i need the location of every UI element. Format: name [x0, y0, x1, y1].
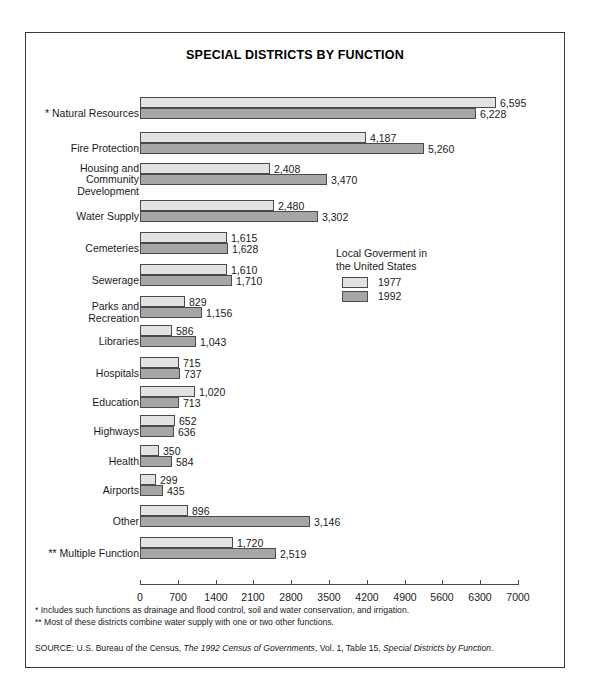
bar-1977: 350	[140, 445, 159, 456]
bar-group: 299435	[140, 474, 163, 496]
bar-1992: 2,519	[140, 548, 276, 559]
legend-item-1992: 1992	[336, 290, 496, 302]
source-line: SOURCE: U.S. Bureau of the Census, The 1…	[35, 642, 555, 654]
bar-1977: 2,408	[140, 163, 270, 174]
bar-value-label: 5,260	[428, 143, 454, 155]
bar-1977: 896	[140, 505, 188, 516]
bar-value-label: 713	[183, 397, 201, 409]
bar-1992: 713	[140, 397, 179, 408]
category-label: Fire Protection	[0, 143, 139, 155]
bar-1977: 1,610	[140, 264, 227, 275]
legend-swatch-1992	[342, 291, 368, 302]
bar-group: 350584	[140, 445, 172, 467]
category-label: Cemeteries	[0, 243, 139, 255]
axis-tick	[253, 580, 254, 585]
legend-item-1977: 1977	[336, 276, 496, 288]
bar-1992: 584	[140, 456, 172, 467]
bar-1992: 3,302	[140, 211, 318, 222]
bar-1992: 1,710	[140, 275, 232, 286]
axis-tick	[329, 580, 330, 585]
axis-tick-label: 2800	[279, 591, 302, 603]
bar-1992: 737	[140, 368, 180, 379]
category-label: Airports	[0, 485, 139, 497]
bar-value-label: 1,628	[232, 243, 258, 255]
bar-1977: 652	[140, 415, 175, 426]
bar-value-label: 586	[176, 325, 194, 337]
bar-group: 652636	[140, 415, 175, 437]
x-axis: 0700140021002800350042004900560063007000	[140, 584, 518, 585]
chart-figure-frame: SPECIAL DISTRICTS BY FUNCTION * Natural …	[25, 32, 565, 668]
bar-1977: 1,020	[140, 386, 195, 397]
axis-tick-label: 700	[169, 591, 187, 603]
bar-1977: 1,615	[140, 232, 227, 243]
axis-tick	[442, 580, 443, 585]
bar-group: 1,6151,628	[140, 232, 228, 254]
bar-group: 8963,146	[140, 505, 310, 527]
axis-tick-label: 4200	[355, 591, 378, 603]
bar-1992: 3,470	[140, 174, 327, 185]
axis-tick	[518, 580, 519, 585]
bar-value-label: 1,720	[237, 537, 263, 549]
bar-1977: 1,720	[140, 537, 233, 548]
bar-group: 8291,156	[140, 296, 202, 318]
category-label: Health	[0, 456, 139, 468]
category-label: Libraries	[0, 336, 139, 348]
chart-legend: Local Goverment in the United States 197…	[336, 247, 496, 302]
legend-title: Local Goverment in the United States	[336, 247, 496, 272]
bar-1992: 435	[140, 485, 163, 496]
category-label: Other	[0, 516, 139, 528]
category-label: Water Supply	[0, 211, 139, 223]
bar-1992: 1,043	[140, 336, 196, 347]
bar-1992: 1,156	[140, 307, 202, 318]
bar-1992: 636	[140, 426, 174, 437]
bar-value-label: 636	[178, 426, 196, 438]
axis-tick-label: 6300	[468, 591, 491, 603]
bar-group: 1,020713	[140, 386, 195, 408]
legend-swatch-1977	[342, 277, 368, 288]
category-label: Sewerage	[0, 275, 139, 287]
axis-tick-label: 3500	[317, 591, 340, 603]
source-title-census: The 1992 Census of Governments	[184, 643, 315, 653]
bar-1992: 5,260	[140, 143, 424, 154]
bar-value-label: 3,302	[322, 211, 348, 223]
bar-group: 715737	[140, 357, 180, 379]
bar-1977: 586	[140, 325, 172, 336]
axis-tick	[216, 580, 217, 585]
bar-value-label: 2,519	[280, 548, 306, 560]
bar-group: 1,7202,519	[140, 537, 276, 559]
bar-group: 6,5956,228	[140, 97, 496, 119]
chart-notes: * Includes such functions as drainage an…	[35, 604, 555, 654]
category-label: ** Multiple Function	[0, 548, 139, 560]
category-label: Parks and Recreation	[0, 301, 139, 324]
bar-value-label: 896	[192, 505, 210, 517]
bar-value-label: 1,020	[199, 386, 225, 398]
bar-value-label: 1,043	[200, 336, 226, 348]
legend-label-1992: 1992	[378, 290, 401, 302]
axis-tick-label: 0	[137, 591, 143, 603]
bar-value-label: 435	[167, 485, 185, 497]
axis-tick	[178, 580, 179, 585]
bar-value-label: 2,408	[274, 163, 300, 175]
axis-tick	[480, 580, 481, 585]
category-label: Highways	[0, 426, 139, 438]
bar-value-label: 737	[184, 368, 202, 380]
bar-1992: 1,628	[140, 243, 228, 254]
footnote-single-asterisk: * Includes such functions as drainage an…	[35, 604, 555, 616]
category-label: Housing and Community Development	[0, 163, 139, 198]
category-label: Education	[0, 397, 139, 409]
axis-tick-label: 7000	[506, 591, 529, 603]
bar-1977: 829	[140, 296, 185, 307]
axis-tick	[140, 580, 141, 585]
bar-1977: 299	[140, 474, 156, 485]
bar-group: 4,1875,260	[140, 132, 424, 154]
bar-value-label: 4,187	[370, 132, 396, 144]
category-label: Hospitals	[0, 368, 139, 380]
legend-label-1977: 1977	[378, 276, 401, 288]
bar-1977: 6,595	[140, 97, 496, 108]
axis-tick	[291, 580, 292, 585]
source-prefix: SOURCE: U.S. Bureau of the Census,	[35, 643, 184, 653]
footnote-double-asterisk: ** Most of these districts combine water…	[35, 616, 555, 628]
bar-value-label: 2,480	[278, 200, 304, 212]
chart-plot-area: * Natural Resources6,5956,228Fire Protec…	[26, 33, 566, 669]
bar-value-label: 3,146	[314, 516, 340, 528]
